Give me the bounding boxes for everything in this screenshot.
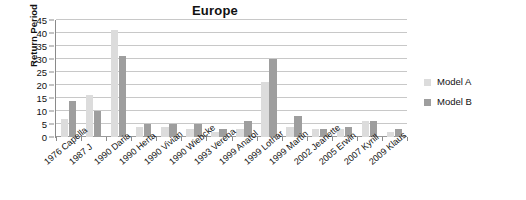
chart-legend: Model AModel B xyxy=(424,72,472,112)
bar-model-a xyxy=(362,121,369,137)
bar-model-b xyxy=(94,111,101,137)
light-gray-swatch xyxy=(424,79,431,86)
chart-title: Europe xyxy=(0,3,526,18)
bar-group xyxy=(181,20,206,137)
bar-group xyxy=(232,20,257,137)
y-tick-label-45: 45 xyxy=(36,15,47,26)
y-tick-mark-15 xyxy=(49,98,54,99)
bar-group xyxy=(282,20,307,137)
y-tick-mark-45 xyxy=(49,20,54,21)
bar-group xyxy=(357,20,382,137)
bar-group xyxy=(131,20,156,137)
y-axis-tick-labels: 051015202530354045 xyxy=(0,20,56,137)
bar-model-a xyxy=(161,127,168,137)
legend-entry[interactable]: Model B xyxy=(424,92,472,112)
y-tick-label-15: 15 xyxy=(36,93,47,104)
bar-model-b xyxy=(119,56,126,137)
bar-group xyxy=(206,20,231,137)
bar-group xyxy=(257,20,282,137)
bar-group xyxy=(81,20,106,137)
y-tick-label-5: 5 xyxy=(42,119,47,130)
bar-series-container xyxy=(56,20,407,137)
y-tick-label-35: 35 xyxy=(36,41,47,52)
y-tick-mark-5 xyxy=(49,124,54,125)
legend-label: Model A xyxy=(437,77,471,87)
bar-model-b xyxy=(269,59,276,137)
y-tick-mark-30 xyxy=(49,59,54,60)
legend-entry[interactable]: Model A xyxy=(424,72,472,92)
y-tick-label-30: 30 xyxy=(36,54,47,65)
plot-area xyxy=(56,20,407,137)
bar-group xyxy=(307,20,332,137)
legend-label: Model B xyxy=(437,97,472,107)
bar-group xyxy=(106,20,131,137)
y-tick-label-20: 20 xyxy=(36,80,47,91)
bar-group xyxy=(56,20,81,137)
y-tick-label-40: 40 xyxy=(36,28,47,39)
y-tick-mark-0 xyxy=(49,137,54,138)
bar-model-a xyxy=(61,119,68,137)
y-tick-mark-40 xyxy=(49,33,54,34)
y-tick-mark-35 xyxy=(49,46,54,47)
bar-model-a xyxy=(111,30,118,137)
bar-group xyxy=(156,20,181,137)
y-tick-mark-25 xyxy=(49,72,54,73)
bar-chart: Europe Return Period 051015202530354045 … xyxy=(0,0,526,200)
bar-model-a xyxy=(286,127,293,137)
y-tick-mark-20 xyxy=(49,85,54,86)
bar-model-a xyxy=(261,82,268,137)
bar-group xyxy=(382,20,407,137)
dark-gray-swatch xyxy=(424,99,431,106)
x-axis-category-labels: 1976 Capella1987 J1990 Daria1990 Herta19… xyxy=(0,139,420,200)
y-tick-mark-10 xyxy=(49,111,54,112)
y-tick-label-25: 25 xyxy=(36,67,47,78)
bar-group xyxy=(332,20,357,137)
y-tick-label-10: 10 xyxy=(36,106,47,117)
bar-model-a xyxy=(136,127,143,137)
